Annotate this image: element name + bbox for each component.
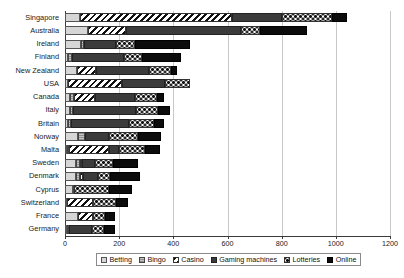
bar-segment-casino: [67, 198, 93, 207]
legend-label: Gaming machines: [219, 256, 277, 264]
stacked-bar-chart: SingaporeAustraliaIrelandFinlandNew Zeal…: [0, 0, 404, 278]
bar-segment-lotteries: [136, 106, 158, 115]
bar-segment-gaming-machines: [73, 106, 137, 115]
bar-segment-casino: [77, 66, 96, 75]
legend-label: Lotteries: [293, 256, 321, 264]
legend-item-online[interactable]: Online: [327, 256, 356, 264]
x-axis-tick-label-1200: 1200: [382, 240, 398, 248]
bar-segment-casino: [74, 93, 94, 102]
bar-segment-casino: [78, 212, 93, 221]
legend-item-lotteries[interactable]: Lotteries: [284, 256, 320, 264]
y-axis-label-switzerland: Switzerland: [21, 199, 59, 206]
bar-segment-online: [154, 119, 165, 128]
bar-segment-gaming-machines: [82, 159, 94, 168]
bar-segment-lotteries: [241, 26, 260, 35]
bar-segment-online: [105, 212, 114, 221]
y-axis-label-germany: Germany: [29, 225, 59, 232]
bar-segment-casino: [69, 145, 110, 154]
legend-label: Casino: [181, 256, 203, 264]
legend-label: Bingo: [147, 256, 165, 264]
bar-segment-lotteries: [149, 66, 171, 75]
plot-area: [65, 11, 390, 236]
y-axis-label-canada: Canada: [33, 93, 59, 100]
bar-segment-gaming-machines: [126, 26, 241, 35]
bar-segment-casino: [80, 13, 232, 22]
y-axis-label-usa: USA: [44, 80, 59, 87]
bar-segment-lotteries: [119, 145, 145, 154]
legend-label: Online: [336, 256, 357, 264]
y-axis-label-ireland: Ireland: [36, 40, 59, 47]
bar-segment-online: [157, 93, 164, 102]
bar-segment-betting: [65, 172, 76, 181]
bar-segment-online: [145, 145, 160, 154]
x-axis-tick-label-200: 200: [113, 240, 125, 248]
bar-segment-online: [110, 172, 140, 181]
bar-segment-lotteries: [92, 225, 104, 234]
bar-segment-lotteries: [98, 172, 110, 181]
y-axis-label-sweden: Sweden: [32, 159, 59, 166]
bar-segment-lotteries: [129, 119, 153, 128]
bingo-swatch: [139, 257, 145, 263]
gaming-machines-swatch: [211, 257, 217, 263]
gridline-800: [282, 11, 283, 236]
bar-segment-betting: [65, 66, 77, 75]
bar-segment-gaming-machines: [72, 53, 125, 62]
lotteries-swatch: [284, 257, 290, 263]
bar-segment-betting: [65, 185, 73, 194]
bar-segment-gaming-machines: [84, 40, 117, 49]
y-axis-label-australia: Australia: [30, 27, 59, 34]
x-axis-tick-label-0: 0: [63, 240, 67, 248]
legend-item-betting[interactable]: Betting: [101, 256, 132, 264]
bar-segment-casino: [68, 79, 122, 88]
bar-segment-bingo: [78, 132, 85, 141]
bar-segment-online: [104, 225, 115, 234]
gridline-1000: [336, 11, 337, 236]
y-axis-label-malta: Malta: [41, 146, 59, 153]
gridline-1200: [390, 11, 391, 236]
bar-segment-betting: [65, 40, 81, 49]
bar-segment-lotteries: [135, 93, 157, 102]
bar-segment-gaming-machines: [109, 145, 118, 154]
x-axis-tick-label-800: 800: [276, 240, 288, 248]
chart-legend: BettingBingoCasinoGaming machinesLotteri…: [96, 253, 361, 266]
bar-segment-online: [142, 53, 181, 62]
bar-segment-casino: [88, 26, 126, 35]
bar-segment-gaming-machines: [83, 172, 98, 181]
bar-segment-gaming-machines: [232, 13, 282, 22]
bar-segment-gaming-machines: [96, 66, 149, 75]
bar-segment-lotteries: [74, 185, 109, 194]
legend-label: Betting: [110, 256, 132, 264]
bar-segment-lotteries: [93, 212, 105, 221]
y-axis-label-singapore: Singapore: [25, 14, 59, 21]
bar-segment-betting: [65, 212, 78, 221]
bar-segment-gaming-machines: [95, 93, 136, 102]
x-axis-tick-label-1000: 1000: [328, 240, 344, 248]
bar-segment-online: [332, 13, 347, 22]
bar-segment-online: [113, 159, 137, 168]
bar-segment-online: [171, 66, 178, 75]
y-axis-label-britain: Britain: [38, 120, 59, 127]
casino-swatch: [173, 257, 179, 263]
legend-item-casino[interactable]: Casino: [173, 256, 204, 264]
bar-segment-lotteries: [93, 198, 116, 207]
y-axis-label-norway: Norway: [34, 133, 59, 140]
bar-segment-gaming-machines: [69, 225, 92, 234]
bar-segment-betting: [65, 26, 88, 35]
bar-segment-online: [158, 106, 170, 115]
y-axis-label-france: France: [36, 212, 59, 219]
bar-segment-gaming-machines: [85, 132, 109, 141]
bar-segment-online: [138, 132, 161, 141]
betting-swatch: [101, 257, 107, 263]
legend-item-gaming-machines[interactable]: Gaming machines: [211, 256, 277, 264]
bar-segment-online: [260, 26, 307, 35]
y-axis-label-new-zealand: New Zealand: [15, 67, 59, 74]
y-axis-label-italy: Italy: [45, 106, 59, 113]
bar-segment-online: [109, 185, 132, 194]
bar-segment-online: [116, 198, 128, 207]
bar-segment-lotteries: [124, 53, 142, 62]
bar-segment-betting: [65, 159, 76, 168]
legend-item-bingo[interactable]: Bingo: [139, 256, 166, 264]
y-axis-label-denmark: Denmark: [29, 172, 59, 179]
y-axis-label-cyprus: Cyprus: [36, 186, 59, 193]
bar-segment-betting: [65, 13, 80, 22]
